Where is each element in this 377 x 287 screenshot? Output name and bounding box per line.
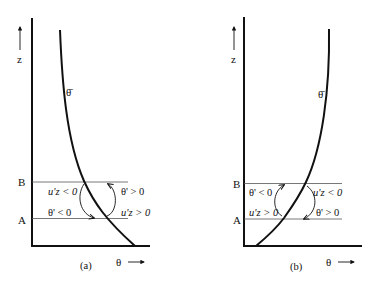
- annotation-lower-right: u'z > 0: [121, 207, 151, 218]
- panel-caption: (b): [290, 261, 303, 273]
- y-axis-label: z: [17, 53, 22, 65]
- annotation-upper-left: u'z < 0: [48, 186, 78, 197]
- curve-label: θ̄: [66, 86, 73, 98]
- annotation-upper-left: θ' < 0: [249, 187, 272, 198]
- level-b-label: B: [233, 178, 240, 190]
- x-axis-label: θ: [116, 256, 121, 268]
- annotation-upper-right: θ' > 0: [121, 186, 144, 197]
- curve-label: θ̄: [318, 88, 325, 100]
- level-a-label: A: [233, 214, 241, 226]
- x-axis-label: θ: [326, 256, 331, 268]
- annotation-lower-left: u'z > 0: [249, 207, 279, 218]
- panel-caption: (a): [80, 260, 92, 272]
- annotation-lower-right: θ' > 0: [316, 207, 339, 218]
- panel-a: z θ̄ B A u'z < 0 θ' > 0 θ' < 0 u'z > 0 (…: [17, 18, 151, 272]
- level-a-label: A: [18, 214, 26, 226]
- annotation-upper-right: u'z < 0: [313, 187, 343, 198]
- panel-b: z θ̄ B A θ' < 0 u'z < 0 u'z > 0 θ' > 0 (…: [231, 17, 362, 273]
- figure-canvas: z θ̄ B A u'z < 0 θ' > 0 θ' < 0 u'z > 0 (…: [0, 0, 377, 287]
- eddy-arrow-right: [107, 184, 115, 216]
- annotation-lower-left: θ' < 0: [48, 207, 71, 218]
- level-b-label: B: [18, 176, 25, 188]
- y-axis-label: z: [231, 53, 236, 65]
